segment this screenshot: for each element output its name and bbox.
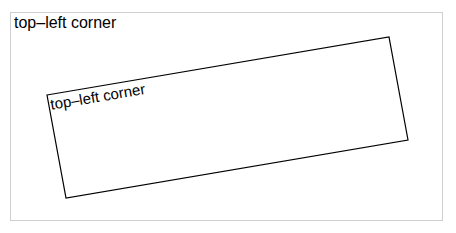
rotated-rectangle	[0, 0, 456, 233]
